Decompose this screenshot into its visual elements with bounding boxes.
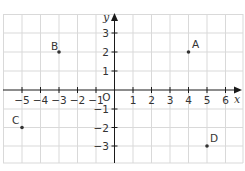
y-tick-label: −2 — [94, 122, 109, 134]
point-label: C — [12, 114, 19, 126]
x-tick-label: 2 — [148, 94, 155, 106]
point-label: B — [51, 40, 58, 52]
point-marker — [205, 144, 209, 148]
axes — [3, 20, 236, 163]
x-tick-label: −4 — [33, 94, 49, 106]
origin-label: O — [102, 91, 110, 103]
y-tick-label: 3 — [102, 27, 109, 39]
point-label: A — [192, 38, 200, 50]
x-tick-label: −3 — [51, 94, 66, 106]
point-marker — [20, 126, 24, 130]
x-tick-label: −2 — [70, 94, 85, 106]
x-tick-label: 1 — [130, 94, 137, 106]
y-axis-label: y — [102, 11, 110, 24]
y-tick-label: −3 — [94, 140, 109, 152]
x-tick-label: 6 — [222, 94, 229, 106]
y-tick-label: −1 — [94, 103, 109, 115]
x-tick-label: −5 — [14, 94, 29, 106]
point-label: D — [210, 132, 218, 144]
x-tick-labels: −5 −4 −3 −2 −1 1 2 3 4 5 6 — [14, 94, 229, 106]
y-tick-label: 2 — [102, 46, 109, 58]
x-tick-label: 5 — [204, 94, 211, 106]
coordinate-grid: −5 −4 −3 −2 −1 1 2 3 4 5 6 3 2 1 −1 −2 −… — [0, 0, 245, 171]
x-axis-label: x — [234, 93, 241, 106]
x-tick-label: 4 — [185, 94, 192, 106]
y-tick-label: 1 — [102, 65, 109, 77]
point-marker — [187, 50, 191, 54]
x-tick-label: 3 — [167, 94, 174, 106]
